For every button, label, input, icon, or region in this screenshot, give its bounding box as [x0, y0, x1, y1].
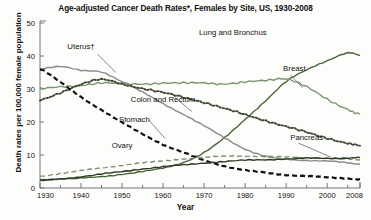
- y-tick-label: 10: [27, 151, 35, 160]
- x-tick-label: 1990: [278, 191, 295, 200]
- [object Object]: [149, 120, 165, 138]
- series-label-uterus: Uterus†: [67, 42, 94, 51]
- series-label-breast: Breast: [283, 64, 306, 73]
- x-tick-label: 1980: [237, 191, 254, 200]
- x-tick-label: 1940: [73, 191, 90, 200]
- [object Object]: [298, 143, 331, 157]
- y-tick-label: 0: [31, 184, 35, 193]
- y-tick-label: 40: [27, 52, 35, 61]
- plot-area: 0102030405019301940195019601970198019902…: [0, 0, 371, 220]
- series-label-lung-and-bronchus: Lung and Bronchus: [199, 28, 267, 37]
- x-tick-label: 2000: [319, 191, 336, 200]
- series-label-stomach: Stomach: [119, 115, 150, 124]
- [object Object]: [97, 54, 115, 72]
- series-label-colon-and-rectum: Colon and Rectum: [131, 95, 196, 104]
- series-line-breast: [40, 78, 360, 114]
- x-tick-label: 1930: [37, 191, 54, 200]
- x-tick-label: 1950: [114, 191, 131, 200]
- series-label-pancreas: Pancreas: [290, 133, 323, 142]
- cancer-death-rates-chart: Age-adjusted Cancer Death Rates*, Female…: [0, 0, 371, 220]
- x-tick-label: 1970: [196, 191, 213, 200]
- y-tick-label: 20: [27, 118, 35, 127]
- x-tick-label: 1960: [155, 191, 172, 200]
- x-tick-label: 2008: [346, 191, 363, 200]
- series-line-uterus: [40, 66, 360, 164]
- series-label-ovary: Ovary: [112, 141, 133, 150]
- y-tick-label: 50: [27, 19, 35, 28]
- y-tick-label: 30: [27, 85, 35, 94]
